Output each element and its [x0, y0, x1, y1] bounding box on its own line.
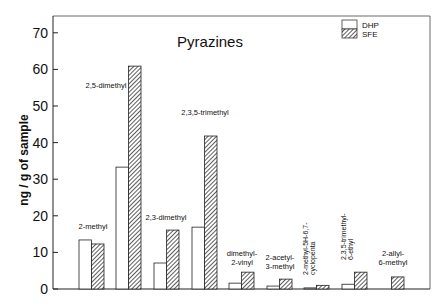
bar-dhp — [304, 288, 317, 289]
y-tick-label: 70 — [32, 25, 48, 41]
y-tick-label: 60 — [32, 61, 48, 77]
category-label: 2-allyl-6-methyl — [379, 249, 408, 267]
bar-dhp — [267, 286, 280, 289]
category-label: 2-methyl-5H-6,7-cyclopenta — [302, 222, 317, 275]
y-tick-label: 20 — [32, 208, 48, 224]
bar-dhp — [116, 167, 129, 289]
bar-dhp — [342, 284, 355, 289]
bar-dhp — [192, 227, 205, 289]
category-label: dimethyl-2-vinyl — [227, 249, 258, 267]
bar-sfe — [92, 244, 105, 289]
legend-label: SFE — [362, 30, 378, 39]
svg-text:6-ethyl: 6-ethyl — [347, 239, 355, 260]
y-axis-label: ng / g of sample — [17, 114, 31, 206]
category-label: 2,5-dimethyl — [86, 81, 127, 90]
bar-sfe — [205, 136, 218, 289]
chart-figure: 010203040506070 2-methyl2,5-dimethyl2,3-… — [0, 0, 448, 307]
legend-swatch-sfe — [342, 29, 357, 38]
category-label: 2,3,5-trimethyl — [181, 108, 229, 117]
y-tick-label: 30 — [32, 171, 48, 187]
legend-swatch-dhp — [342, 20, 357, 29]
bar-sfe — [167, 230, 180, 289]
bar-sfe — [392, 277, 405, 289]
category-label: 2,3,5-trimethyl-6-ethyl — [340, 213, 355, 260]
bar-sfe — [280, 279, 293, 289]
y-tick-label: 10 — [32, 244, 48, 260]
category-label: 2-methyl — [79, 222, 108, 231]
bar-dhp — [229, 283, 242, 289]
bar-dhp — [79, 240, 92, 289]
category-label: 2,3-dimethyl — [146, 213, 187, 222]
y-tick-label: 0 — [40, 281, 48, 297]
svg-text:cyclopenta: cyclopenta — [309, 241, 317, 275]
legend: DHPSFE — [342, 20, 379, 39]
y-axis: 010203040506070 — [32, 25, 58, 297]
y-tick-label: 50 — [32, 98, 48, 114]
bar-sfe — [129, 66, 142, 289]
legend-label: DHP — [362, 21, 379, 30]
bar-sfe — [242, 272, 255, 289]
chart-title: Pyrazines — [177, 33, 243, 50]
bar-dhp — [154, 263, 167, 289]
category-label: 2-acetyl-3-methyl — [266, 253, 295, 271]
y-tick-label: 40 — [32, 135, 48, 151]
bar-sfe — [317, 285, 330, 289]
bar-sfe — [355, 272, 368, 289]
bar-chart: 010203040506070 2-methyl2,5-dimethyl2,3-… — [0, 0, 448, 307]
